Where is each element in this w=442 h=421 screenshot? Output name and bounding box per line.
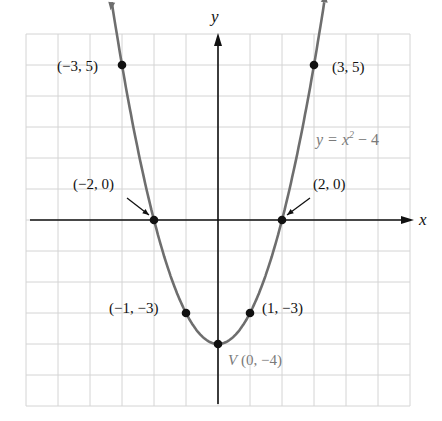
point-label-neg1-neg3: (−1, −3)	[109, 301, 158, 316]
point-label-neg3-5: (−3, 5)	[57, 59, 98, 74]
equation-suffix: − 4	[354, 131, 379, 148]
point-label-3-5: (3, 5)	[332, 60, 365, 75]
vertex-letter: V	[228, 352, 237, 368]
equation-prefix: y = x	[316, 131, 349, 148]
point-label-2-0: (2, 0)	[313, 177, 346, 192]
equation-label: y = x2 − 4	[316, 130, 379, 148]
y-axis-label: y	[211, 8, 219, 25]
point-label-1-neg3: (1, −3)	[262, 301, 303, 316]
x-axis-label: x	[419, 211, 427, 228]
vertex-label: V (0, −4)	[228, 353, 282, 368]
point-label-neg2-0: (−2, 0)	[73, 177, 114, 192]
vertex-coords: (0, −4)	[241, 352, 282, 368]
